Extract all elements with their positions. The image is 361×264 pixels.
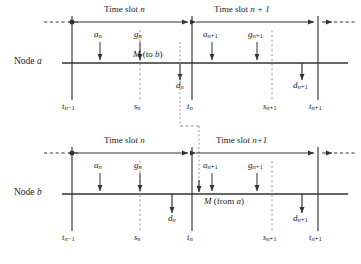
tick-label-t-n1-a: tn+1 <box>309 102 322 112</box>
event-label-a-n1-b: an+1 <box>203 161 218 171</box>
event-label-g-n1-b: gn+1 <box>248 161 263 171</box>
timing-diagram-svg <box>0 0 361 264</box>
event-label-d-n-a: dn <box>176 81 184 91</box>
panel-node-b <box>44 126 356 231</box>
event-label-d-n-b: dn <box>168 214 176 224</box>
message-label-from-a: M (from a) <box>204 197 244 206</box>
event-label-a-n-b: an <box>94 161 102 171</box>
slot-label-n-a: Time slot n <box>104 5 145 14</box>
event-label-g-n-a: gn <box>134 30 142 40</box>
tick-label-s-n1-a: sn+1 <box>263 102 277 112</box>
event-label-d-n1-b: dn+1 <box>293 214 308 224</box>
event-label-g-n1-a: gn+1 <box>248 30 263 40</box>
node-label-b: Node b <box>14 188 42 198</box>
tick-label-t-n-b: tn <box>187 233 193 243</box>
figure-canvas: Time slot n Time slot n + 1 Node a an gn… <box>0 0 361 264</box>
tick-label-s-n-b: sn <box>134 233 141 243</box>
tick-label-s-n1-b: sn+1 <box>263 233 277 243</box>
tick-label-t-n-1-a: tn−1 <box>62 102 75 112</box>
message-label-to-b: M (to b) <box>133 50 163 59</box>
slot-label-n1-a: Time slot n + 1 <box>214 5 270 14</box>
tick-label-s-n-a: sn <box>134 102 141 112</box>
event-label-d-n1-a: dn+1 <box>293 81 308 91</box>
event-label-a-n-a: an <box>94 30 102 40</box>
event-label-a-n1-a: an+1 <box>203 30 218 40</box>
tick-label-t-n-1-b: tn−1 <box>62 233 75 243</box>
tick-label-t-n1-b: tn+1 <box>309 233 322 243</box>
slot-label-n1-b: Time slot n+1 <box>216 136 267 145</box>
tick-label-t-n-a: tn <box>187 102 193 112</box>
node-label-a: Node a <box>14 57 42 67</box>
event-label-g-n-b: gn <box>134 161 142 171</box>
slot-label-n-b: Time slot n <box>104 136 145 145</box>
